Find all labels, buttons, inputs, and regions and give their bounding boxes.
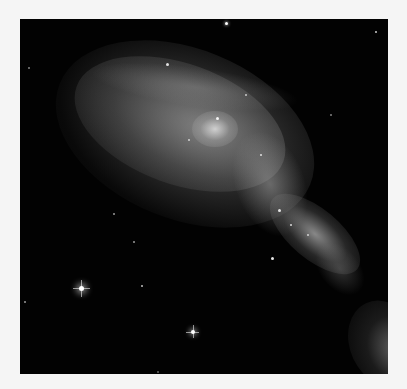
knot xyxy=(307,234,309,236)
spiral-arm-upper xyxy=(88,53,302,122)
star xyxy=(28,67,30,69)
star xyxy=(271,257,274,260)
galaxy-image xyxy=(20,19,388,374)
star-spike xyxy=(81,280,82,297)
tidal-tail xyxy=(257,179,373,288)
knot xyxy=(260,154,262,156)
companion-galaxy xyxy=(334,288,388,374)
star xyxy=(375,31,377,33)
knot xyxy=(278,209,281,212)
knot xyxy=(216,117,219,120)
galaxy-halo xyxy=(28,19,342,263)
star xyxy=(113,213,115,215)
tidal-tail-knots xyxy=(305,233,374,305)
knot xyxy=(290,224,292,226)
star xyxy=(141,285,143,287)
galaxy-core xyxy=(192,111,238,147)
knot xyxy=(166,63,169,66)
galaxy-disk xyxy=(56,30,304,218)
knot xyxy=(245,94,247,96)
star xyxy=(157,371,159,373)
star xyxy=(24,301,26,303)
star-spike xyxy=(193,325,194,338)
star xyxy=(133,241,135,243)
star xyxy=(225,22,228,25)
knot xyxy=(188,139,190,141)
spiral-arm-right xyxy=(218,120,321,247)
star xyxy=(330,114,332,116)
